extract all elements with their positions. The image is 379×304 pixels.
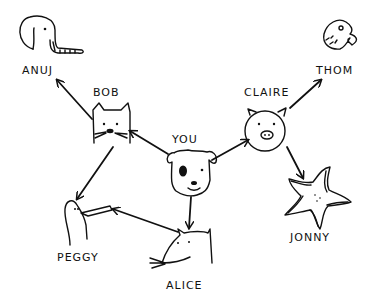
label-bob: BOB bbox=[93, 86, 120, 99]
label-thom: THOM bbox=[315, 64, 353, 77]
edge-bob-peggy bbox=[77, 147, 113, 199]
label-peggy: PEGGY bbox=[57, 251, 99, 264]
dog-icon bbox=[167, 150, 216, 196]
starfish-icon bbox=[285, 167, 351, 229]
pig-icon bbox=[245, 108, 286, 151]
edge-you-bob bbox=[130, 131, 168, 154]
label-alice: ALICE bbox=[166, 279, 203, 292]
bird-icon bbox=[65, 201, 112, 245]
edge-claire-jonny bbox=[287, 147, 303, 178]
graph-diagram: ANUJ BOB YOU CLAIRE THOM bbox=[0, 0, 379, 304]
edge-you-alice bbox=[189, 197, 191, 228]
label-you: YOU bbox=[171, 133, 198, 146]
diagram-svg: ANUJ BOB YOU CLAIRE THOM bbox=[0, 0, 379, 304]
cat-icon bbox=[93, 103, 130, 143]
edge-claire-thom bbox=[290, 80, 321, 108]
elephant-icon bbox=[20, 16, 83, 53]
rat-icon bbox=[150, 229, 212, 268]
edge-alice-peggy bbox=[113, 209, 178, 232]
label-claire: CLAIRE bbox=[244, 86, 289, 99]
label-jonny: JONNY bbox=[289, 231, 330, 244]
fish-icon bbox=[324, 20, 357, 49]
edge-you-claire bbox=[212, 140, 248, 160]
edge-bob-anuj bbox=[57, 80, 92, 119]
label-anuj: ANUJ bbox=[22, 64, 53, 77]
